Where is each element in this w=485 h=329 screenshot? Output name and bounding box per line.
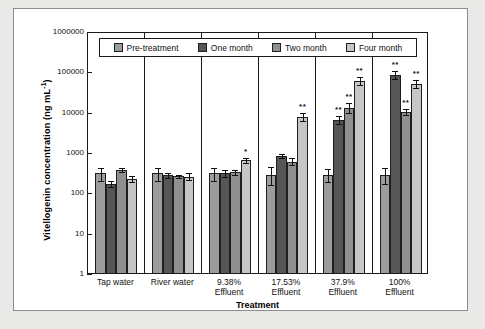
- error-bar: [101, 168, 102, 181]
- bar: [323, 175, 334, 274]
- error-bar-cap-lower: [346, 113, 352, 114]
- error-bar-cap-upper: [325, 169, 331, 170]
- error-bar-cap-upper: [108, 181, 114, 182]
- error-bar-cap-lower: [300, 121, 306, 122]
- error-bar-cap-upper: [279, 154, 285, 155]
- x-axis-group-label-line1: River water: [144, 277, 201, 287]
- bar: [106, 184, 117, 274]
- bar: [173, 176, 184, 274]
- x-axis-group-label-line1: 17.53%: [258, 277, 315, 287]
- y-axis-tick-mark: [87, 113, 92, 114]
- x-axis-group-label: 37.9%Effluent: [314, 277, 371, 297]
- x-axis-group-label-line1: 9.38%: [201, 277, 258, 287]
- error-bar-cap-upper: [382, 168, 388, 169]
- legend-label: Two month: [285, 43, 327, 53]
- x-axis-group-label-line2: Effluent: [371, 287, 428, 297]
- bar: [95, 173, 106, 274]
- error-bar-cap-lower: [325, 182, 331, 183]
- bar: [380, 175, 391, 274]
- y-axis-tick-mark: [87, 153, 92, 154]
- error-bar-cap-lower: [357, 85, 363, 86]
- bar: [333, 120, 344, 274]
- bar: [152, 173, 163, 274]
- error-bar-cap-upper: [403, 109, 409, 110]
- bar: [266, 175, 277, 274]
- error-bar-cap-upper: [186, 173, 192, 174]
- error-bar: [225, 170, 226, 177]
- figure-card: 1000000100000100001000100101 Vitellogeni…: [13, 8, 468, 311]
- y-axis-title-superscript: -1: [40, 83, 47, 89]
- bar: [116, 170, 127, 274]
- y-axis-tick-mark: [87, 193, 92, 194]
- bar: [209, 173, 220, 274]
- group-separator: [144, 33, 145, 273]
- error-bar-cap-upper: [413, 80, 419, 81]
- legend-label: Four month: [359, 43, 402, 53]
- x-axis-group-label-line1: 37.9%: [314, 277, 371, 287]
- bar: [344, 108, 355, 274]
- error-bar: [360, 77, 361, 85]
- error-bar: [349, 103, 350, 113]
- bar: [241, 160, 252, 274]
- error-bar-cap-lower: [243, 163, 249, 164]
- legend-item: One month: [198, 43, 253, 53]
- y-axis-tick-mark: [87, 274, 92, 275]
- error-bar-cap-upper: [289, 158, 295, 159]
- x-axis-group-label: 9.38%Effluent: [201, 277, 258, 297]
- y-axis-tick-mark: [87, 32, 92, 33]
- x-axis-group-label-line2: Effluent: [258, 287, 315, 297]
- x-axis-group-label-line2: Effluent: [201, 287, 258, 297]
- error-bar-cap-lower: [289, 165, 295, 166]
- error-bar-cap-upper: [222, 170, 228, 171]
- legend-label: One month: [211, 43, 253, 53]
- legend-swatch-icon: [114, 43, 123, 52]
- error-bar-cap-lower: [129, 182, 135, 183]
- error-bar: [416, 80, 417, 88]
- error-bar-cap-upper: [357, 77, 363, 78]
- error-bar-cap-lower: [119, 172, 125, 173]
- x-axis-group-label-line2: Effluent: [314, 287, 371, 297]
- bar: [220, 173, 231, 274]
- error-bar-cap-lower: [222, 177, 228, 178]
- error-bar-cap-upper: [243, 158, 249, 159]
- y-axis-title-main: Vitellogenin concentration (ng mL: [42, 89, 52, 241]
- error-bar-cap-lower: [268, 185, 274, 186]
- legend-item: Four month: [346, 43, 402, 53]
- error-bar: [158, 168, 159, 182]
- significance-marker: **: [387, 62, 403, 68]
- group-separator: [201, 33, 202, 273]
- bar: [401, 112, 412, 274]
- error-bar-cap-lower: [336, 124, 342, 125]
- error-bar-cap-lower: [186, 180, 192, 181]
- legend-label: Pre-treatment: [127, 43, 179, 53]
- legend-item: Two month: [272, 43, 327, 53]
- error-bar-cap-lower: [155, 181, 161, 182]
- error-bar-cap-lower: [392, 79, 398, 80]
- plot-area: ***************: [87, 32, 428, 274]
- bar: [297, 117, 308, 275]
- bar: [184, 177, 195, 274]
- group-separator: [258, 33, 259, 273]
- error-bar: [189, 173, 190, 180]
- error-bar: [328, 169, 329, 182]
- significance-marker: *: [238, 149, 254, 155]
- error-bar-cap-upper: [392, 71, 398, 72]
- group-separator: [372, 33, 373, 273]
- error-bar-cap-upper: [268, 167, 274, 168]
- x-axis-title: Treatment: [87, 300, 428, 310]
- error-bar-cap-upper: [211, 168, 217, 169]
- error-bar-cap-lower: [98, 181, 104, 182]
- error-bar-cap-upper: [129, 176, 135, 177]
- error-bar-cap-upper: [346, 103, 352, 104]
- error-bar-cap-lower: [176, 178, 182, 179]
- x-axis-group-label: Tap water: [87, 277, 144, 287]
- error-bar: [339, 116, 340, 124]
- error-bar-cap-lower: [403, 115, 409, 116]
- error-bar-cap-upper: [176, 175, 182, 176]
- y-axis-tick-mark: [87, 234, 92, 235]
- x-axis-group-label-line1: 100%: [371, 277, 428, 287]
- y-axis-tick-label: 1000000: [18, 28, 84, 36]
- error-bar-cap-upper: [336, 116, 342, 117]
- x-axis-group-label: 100%Effluent: [371, 277, 428, 297]
- error-bar-cap-upper: [165, 173, 171, 174]
